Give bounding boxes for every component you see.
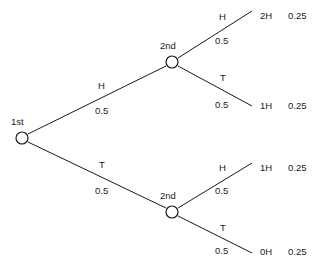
branch-prob-t-upper: 0.5 (215, 100, 228, 110)
node-label-2nd-upper: 2nd (160, 41, 176, 51)
outcome-label-0h: 0H (260, 247, 272, 257)
branch-letter-t-first: T (99, 160, 105, 170)
branch-letter-t-upper: T (220, 73, 226, 83)
node-circle-1st (16, 132, 28, 144)
branch-letter-h-lower: H (219, 163, 226, 173)
branch-letter-h-upper: H (219, 12, 226, 22)
node-circle-2nd-lower (166, 206, 178, 218)
outcome-prob-1h-lower: 0.25 (288, 163, 307, 173)
branch-prob-h-first: 0.5 (95, 106, 108, 116)
branch-line-root-lower (28, 142, 166, 208)
node-label-2nd-lower: 2nd (160, 191, 176, 201)
probability-tree-diagram: 1st 2nd 2nd H 0.5 T 0.5 H 0.5 T 0.5 H 0.… (0, 0, 324, 273)
branch-prob-t-lower: 0.5 (215, 246, 228, 256)
branch-prob-h-upper: 0.5 (215, 36, 228, 46)
outcome-prob-0h: 0.25 (288, 247, 307, 257)
outcome-label-1h-upper: 1H (260, 101, 272, 111)
node-circle-2nd-upper (166, 56, 178, 68)
branch-letter-h-first: H (98, 81, 105, 91)
outcome-label-1h-lower: 1H (260, 163, 272, 173)
node-label-1st: 1st (11, 117, 24, 127)
branch-prob-h-lower: 0.5 (215, 186, 228, 196)
branch-prob-t-first: 0.5 (95, 186, 108, 196)
branch-line-root-upper (28, 66, 166, 134)
outcome-label-2h: 2H (260, 11, 272, 21)
outcome-prob-2h: 0.25 (288, 11, 307, 21)
branch-letter-t-lower: T (220, 223, 226, 233)
outcome-prob-1h-upper: 0.25 (288, 101, 307, 111)
